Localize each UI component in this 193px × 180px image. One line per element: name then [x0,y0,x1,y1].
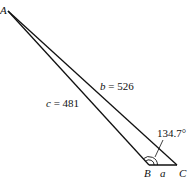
side-b-value: = 526 [106,80,135,92]
side-c-label: c = 481 [46,97,79,109]
side-b-label: b = 526 [100,80,134,92]
vertex-c-label: C [179,167,187,179]
triangle-diagram: A B C a b = 526 c = 481 134.7° [0,0,193,180]
side-a-label: a [160,167,166,179]
vertex-a-label: A [0,4,7,16]
angle-b-label: 134.7° [157,127,186,139]
side-c-value: = 481 [51,97,79,109]
angle-leader-line [155,140,163,157]
side-b-line [8,11,177,165]
vertex-b-label: B [144,167,151,179]
